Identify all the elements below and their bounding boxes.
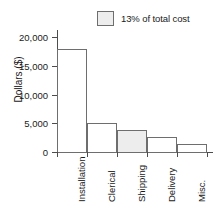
- bar-chart-figure: 13% of total cost Dollars ($) 0 5,000 10…: [0, 0, 223, 206]
- x-tick-label-misc: Misc.: [196, 180, 207, 202]
- x-tick-mark: [87, 152, 88, 157]
- bar-installation: [57, 49, 87, 153]
- x-tick-label-clerical: Clerical: [106, 170, 117, 202]
- x-tick-label-shipping: Shipping: [136, 165, 147, 202]
- y-tick-label-20000: 20,000: [19, 32, 48, 43]
- bar-delivery: [147, 137, 177, 153]
- y-tick-label-10000: 10,000: [19, 90, 48, 101]
- bar-shipping: [117, 130, 147, 153]
- x-tick-mark: [177, 152, 178, 157]
- x-tick-mark: [57, 152, 58, 157]
- legend-swatch-icon: [97, 11, 114, 26]
- x-tick-label-installation: Installation: [76, 157, 87, 202]
- x-tick-mark: [207, 152, 208, 157]
- y-tick-mark: [52, 37, 57, 38]
- bar-clerical: [87, 123, 117, 153]
- y-tick-label-5000: 5,000: [24, 118, 48, 129]
- y-tick-label-15000: 15,000: [19, 61, 48, 72]
- y-tick-label-0: 0: [43, 147, 48, 158]
- legend-label: 13% of total cost: [121, 13, 190, 24]
- x-tick-label-delivery: Delivery: [166, 168, 177, 202]
- chart-legend: 13% of total cost: [97, 11, 190, 26]
- x-tick-mark: [117, 152, 118, 157]
- x-tick-mark: [147, 152, 148, 157]
- bar-misc: [177, 144, 207, 153]
